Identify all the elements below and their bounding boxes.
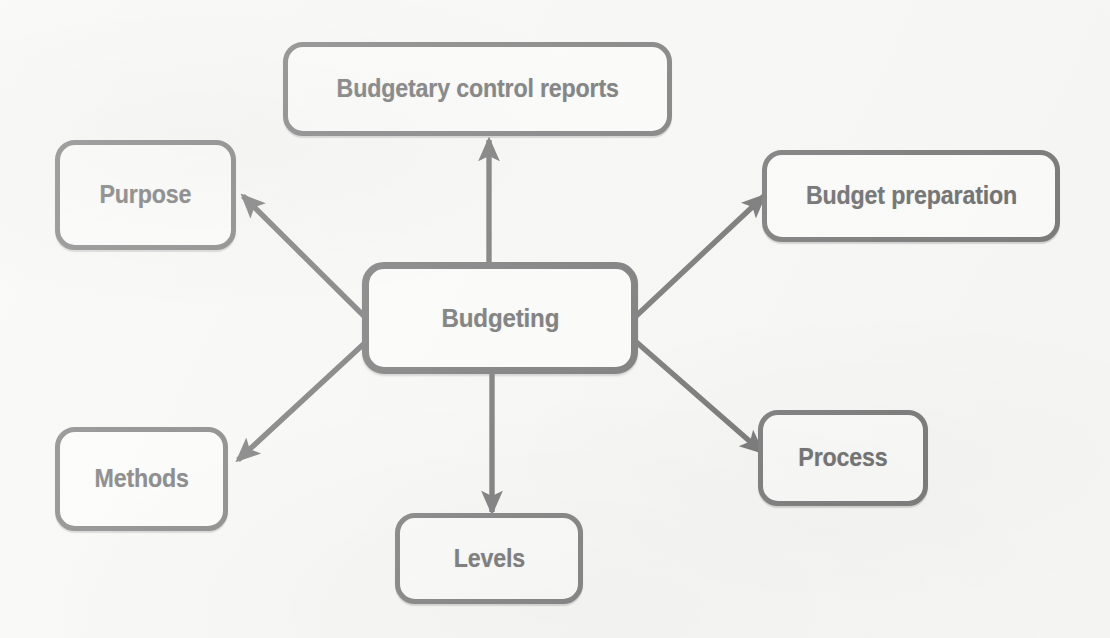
node-budget-preparation[interactable]: Budget preparation <box>762 150 1060 242</box>
connector-budgeting-to-purpose <box>243 196 368 320</box>
node-label: Levels <box>453 545 524 573</box>
node-levels[interactable]: Levels <box>395 513 583 604</box>
node-label: Methods <box>94 465 188 493</box>
node-process[interactable]: Process <box>758 410 928 506</box>
node-budgetary-control-reports[interactable]: Budgetary control reports <box>283 42 672 136</box>
node-label: Purpose <box>100 181 192 209</box>
node-label: Budgeting <box>441 304 559 333</box>
node-label: Budgetary control reports <box>336 75 618 103</box>
connector-budgeting-to-preparation <box>634 196 764 318</box>
diagram-canvas: Budgetary control reports Purpose Budget… <box>0 0 1110 638</box>
node-purpose[interactable]: Purpose <box>55 140 236 250</box>
connector-budgeting-to-process <box>634 340 762 452</box>
node-label: Process <box>798 444 887 472</box>
node-methods[interactable]: Methods <box>55 427 228 531</box>
node-label: Budget preparation <box>805 182 1016 210</box>
connector-budgeting-to-methods <box>238 340 368 460</box>
node-budgeting-center[interactable]: Budgeting <box>362 262 638 374</box>
